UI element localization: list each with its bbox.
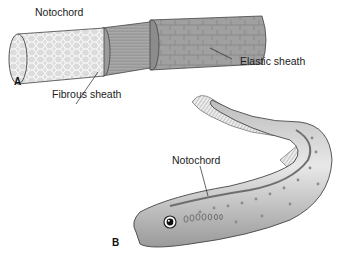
panel-letter-a: A <box>14 76 21 87</box>
panel-letter-b: B <box>112 237 119 248</box>
label-fibrous-sheath: Fibrous sheath <box>52 88 121 100</box>
label-elastic-sheath: Elastic sheath <box>240 55 305 67</box>
diagram-canvas <box>0 0 356 259</box>
notochord-cylinder-illustration <box>9 16 266 104</box>
larva-illustration <box>134 95 332 247</box>
label-notochord-b: Notochord <box>172 154 220 166</box>
label-notochord-a: Notochord <box>35 6 83 18</box>
